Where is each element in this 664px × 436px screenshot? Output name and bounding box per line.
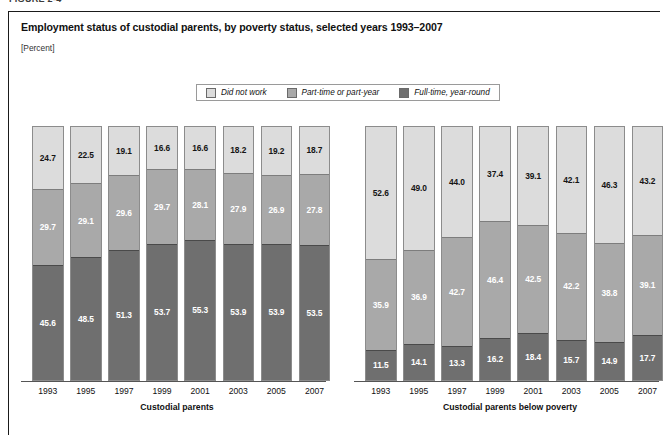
- bar-segment-part-time: 29.6: [109, 175, 139, 250]
- bar-segment-value: 39.1: [525, 172, 541, 180]
- bar-segment-value: 53.7: [154, 308, 170, 316]
- bar-segment-value: 27.8: [306, 206, 322, 214]
- bar-segment-part-time: 38.8: [595, 243, 625, 341]
- legend-swatch-icon: [206, 88, 216, 98]
- bar-segment-value: 29.7: [154, 203, 170, 211]
- bar-segment-value: 39.1: [639, 281, 655, 289]
- bar-segment-full-time: 55.3: [185, 240, 215, 380]
- stacked-bar: 19.129.651.3: [108, 126, 140, 381]
- bar-segment-value: 42.1: [563, 176, 579, 184]
- bar-segment-did-not-work: 49.0: [404, 127, 434, 250]
- bar-segment-value: 55.3: [192, 306, 208, 314]
- bar-segment-full-time: 53.5: [300, 245, 330, 380]
- stacked-bar: 42.142.215.7: [556, 126, 588, 381]
- bar-segment-value: 44.0: [449, 178, 465, 186]
- x-axis-tick-labels-left: 19931995199719992001200320052007: [28, 386, 326, 399]
- bar-segment-part-time: 29.1: [71, 183, 101, 257]
- x-axis-tick-label: 2001: [184, 386, 216, 396]
- plot-area-left: 24.729.745.622.529.148.519.129.651.316.6…: [28, 126, 326, 381]
- x-axis-tick-label: 2007: [299, 386, 331, 396]
- bar-segment-value: 53.9: [268, 308, 284, 316]
- x-axis-tick-labels-right: 19931995199719992001200320052007: [361, 386, 659, 399]
- bar-segment-part-time: 42.2: [557, 233, 587, 340]
- bar-segment-value: 17.7: [639, 354, 655, 362]
- bar-segment-full-time: 14.9: [595, 342, 625, 380]
- bar-segment-value: 45.6: [40, 319, 56, 327]
- bar-segment-full-time: 53.9: [262, 244, 292, 380]
- bar-segment-full-time: 45.6: [33, 265, 63, 380]
- bar-segment-value: 29.6: [116, 209, 132, 217]
- chart-legend: Did not workPart-time or part-yearFull-t…: [196, 84, 500, 101]
- bar-segment-did-not-work: 18.7: [300, 127, 330, 174]
- x-axis-tick-label: 1999: [146, 386, 178, 396]
- legend-item: Did not work: [206, 88, 267, 98]
- panel-caption-left: Custodial parents: [28, 402, 326, 412]
- bar-segment-value: 42.7: [449, 288, 465, 296]
- bar-segment-value: 14.1: [411, 358, 427, 366]
- legend-swatch-icon: [287, 88, 297, 98]
- bar-segment-part-time: 29.7: [33, 189, 63, 265]
- bar-segment-value: 43.2: [639, 177, 655, 185]
- bar-segment-full-time: 53.9: [224, 244, 254, 380]
- bar-segment-value: 42.5: [525, 275, 541, 283]
- bar-segment-value: 26.9: [268, 206, 284, 214]
- bar-segment-value: 28.1: [192, 201, 208, 209]
- bar-segment-full-time: 18.4: [518, 333, 548, 380]
- stacked-bar: 19.226.953.9: [261, 126, 293, 381]
- bar-segment-part-time: 27.9: [224, 173, 254, 244]
- bar-segment-full-time: 11.5: [366, 350, 396, 380]
- bar-segment-full-time: 13.3: [442, 346, 472, 380]
- bar-segment-did-not-work: 19.1: [109, 127, 139, 175]
- x-axis-tick-label: 1995: [403, 386, 435, 396]
- bar-segment-part-time: 27.8: [300, 174, 330, 245]
- bar-segment-full-time: 14.1: [404, 344, 434, 380]
- bar-segment-value: 37.4: [487, 170, 503, 178]
- x-axis-tick-label: 2005: [594, 386, 626, 396]
- bar-segment-value: 29.1: [78, 217, 94, 225]
- stacked-bar: 39.142.518.4: [517, 126, 549, 381]
- legend-item-label: Full-time, year-round: [414, 88, 489, 97]
- bar-segment-part-time: 42.7: [442, 237, 472, 345]
- stacked-bar: 18.227.953.9: [223, 126, 255, 381]
- bar-segment-part-time: 35.9: [366, 259, 396, 350]
- bar-segment-value: 18.4: [525, 353, 541, 361]
- x-axis-tick-label: 1997: [441, 386, 473, 396]
- bar-segment-value: 46.4: [487, 276, 503, 284]
- bar-segment-did-not-work: 18.2: [224, 127, 254, 173]
- x-axis-line-right: [354, 381, 659, 382]
- bar-segment-part-time: 36.9: [404, 250, 434, 344]
- bar-segment-part-time: 29.7: [147, 169, 177, 245]
- bar-segment-value: 42.2: [563, 282, 579, 290]
- bar-segment-did-not-work: 22.5: [71, 127, 101, 183]
- legend-item-label: Did not work: [221, 88, 267, 97]
- stacked-bar: 16.629.753.7: [146, 126, 178, 381]
- bar-segment-did-not-work: 19.2: [262, 127, 292, 175]
- bar-segment-value: 18.7: [306, 146, 322, 154]
- bar-segment-full-time: 53.7: [147, 244, 177, 380]
- x-axis-tick-label: 1999: [479, 386, 511, 396]
- bar-segment-value: 46.3: [601, 181, 617, 189]
- units-note: [Percent]: [21, 43, 55, 53]
- bar-segment-did-not-work: 39.1: [518, 127, 548, 225]
- bar-segment-value: 16.6: [154, 144, 170, 152]
- bar-segment-value: 29.7: [40, 223, 56, 231]
- bar-segment-value: 53.9: [230, 308, 246, 316]
- legend-item-label: Part-time or part-year: [302, 88, 380, 97]
- x-axis-tick-label: 1997: [108, 386, 140, 396]
- bar-segment-did-not-work: 37.4: [480, 127, 510, 221]
- x-axis-tick-label: 1993: [32, 386, 64, 396]
- stacked-bar: 22.529.148.5: [70, 126, 102, 381]
- bar-segment-value: 16.2: [487, 355, 503, 363]
- bar-segment-did-not-work: 46.3: [595, 127, 625, 243]
- x-axis-tick-label: 2005: [261, 386, 293, 396]
- bar-segment-did-not-work: 44.0: [442, 127, 472, 237]
- stacked-bar: 16.628.155.3: [184, 126, 216, 381]
- bar-segment-value: 24.7: [40, 154, 56, 162]
- stacked-bar: 24.729.745.6: [32, 126, 64, 381]
- bar-segment-value: 27.9: [230, 205, 246, 213]
- x-axis-tick-label: 2003: [556, 386, 588, 396]
- stacked-bar: 44.042.713.3: [441, 126, 473, 381]
- bar-segment-did-not-work: 16.6: [185, 127, 215, 169]
- bar-segment-value: 14.9: [601, 357, 617, 365]
- bar-segment-part-time: 42.5: [518, 225, 548, 333]
